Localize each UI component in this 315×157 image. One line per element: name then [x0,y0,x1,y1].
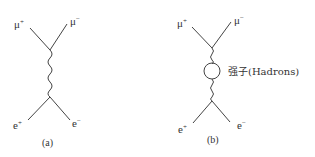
e-minus-label: e− [72,117,81,129]
e-plus-label: e+ [13,119,22,131]
diagram-b: μ+ μ− e+ e− 强子(Hadrons) (b) [177,14,299,146]
mu-minus-line [212,22,231,48]
photon-propagator-upper [211,48,214,64]
e-minus-line [212,101,230,122]
e-plus-line [193,101,212,123]
mu-minus-label: μ− [234,14,244,26]
mu-plus-line [30,28,50,50]
mu-minus-label: μ− [70,15,80,27]
caption-a: (a) [42,137,53,149]
hadrons-label: 强子(Hadrons) [228,66,299,77]
caption-b: (b) [207,134,219,146]
mu-plus-label: μ+ [177,17,187,29]
feynman-diagrams: μ+ μ− e+ e− (a) μ+ μ− e+ e− 强子(Hadrons) … [0,0,315,157]
hadron-loop [204,63,220,79]
mu-plus-label: μ+ [14,18,24,30]
diagram-a: μ+ μ− e+ e− (a) [13,15,81,149]
e-plus-label: e+ [178,123,187,135]
mu-minus-line [50,24,67,50]
photon-propagator [48,50,52,97]
mu-plus-line [192,27,212,48]
e-minus-label: e− [237,119,246,131]
e-plus-line [28,97,50,120]
e-minus-line [50,97,70,120]
photon-propagator-lower [211,79,214,101]
